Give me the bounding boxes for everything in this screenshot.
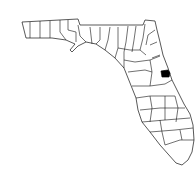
florida-county-map: [0, 0, 196, 185]
highlighted-county-seminole[interactable]: [161, 70, 170, 77]
